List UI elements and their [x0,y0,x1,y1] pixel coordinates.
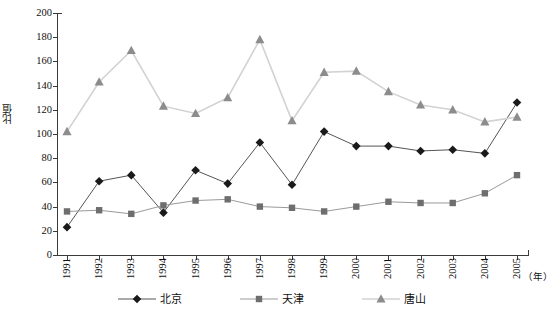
legend-entry-2[interactable]: 天津 [240,293,304,305]
legend-label: 北京 [160,293,182,305]
x-tick-label: 1998 [287,258,297,279]
data-point [416,147,425,156]
y-tick-label: 100 [36,129,52,139]
x-tick-label: 2000 [351,258,361,279]
x-tick-label: 2005 [512,258,522,279]
data-point [385,199,391,205]
x-tick-label: 1994 [158,258,168,279]
data-point [321,208,327,214]
y-tick-label: 20 [42,226,53,236]
data-point [512,112,521,120]
data-point [127,46,136,54]
data-point [63,223,72,232]
y-tick-label: 140 [36,81,52,91]
data-point [191,166,200,175]
x-tick-label: 1993 [126,258,136,279]
data-point [450,200,456,206]
x-tick-label: 1997 [255,258,265,279]
x-tick-label: 1991 [62,258,72,279]
data-point [192,197,198,203]
chart-legend: 北京天津唐山 [0,289,544,309]
data-point [448,145,457,154]
x-tick-label: 2001 [383,258,393,279]
data-point [255,35,264,43]
legend-marker-diamond-icon [118,293,156,305]
legend-entry-1[interactable]: 北京 [118,293,182,305]
legend-label: 唐山 [404,293,426,305]
x-axis-tick-labels: 1991199219931994199519961997199819992000… [57,258,529,292]
legend-marker-triangle-icon [362,293,400,305]
series-3 [62,35,521,135]
data-point [225,196,231,202]
data-point [353,203,359,209]
y-tick-label: 120 [36,105,52,115]
x-tick-label: 2002 [416,258,426,279]
data-point [160,202,166,208]
y-tick-label: 80 [42,153,53,163]
data-point [128,211,134,217]
legend-label: 天津 [282,293,304,305]
data-point [95,177,104,186]
x-tick-label: 2004 [480,258,490,279]
data-point [417,200,423,206]
data-point [289,205,295,211]
x-tick-label: 1999 [319,258,329,279]
y-axis-tick-labels: 020406080100120140160180200 [22,0,52,262]
legend-marker-square-icon [240,293,278,305]
data-point [159,101,168,109]
data-point [320,127,329,136]
series-2 [64,172,520,217]
y-tick-mark [53,255,57,256]
x-axis-unit-label: （年） [523,272,551,282]
data-point [223,93,232,101]
x-axis-line [57,255,529,256]
x-tick-label: 1995 [191,258,201,279]
data-point [257,203,263,209]
x-tick-label: 2003 [448,258,458,279]
x-tick-label: 1992 [94,258,104,279]
data-point [223,179,232,188]
data-point [352,142,361,151]
plot-area [57,13,529,255]
y-tick-label: 160 [36,56,52,66]
data-series-layer [57,13,529,255]
y-tick-label: 60 [42,177,53,187]
data-point [514,172,520,178]
data-point [384,142,393,151]
y-tick-label: 200 [36,8,52,18]
data-point [513,98,522,107]
y-tick-label: 180 [36,32,52,42]
x-tick-label: 1996 [223,258,233,279]
data-point [64,208,70,214]
data-point [482,190,488,196]
data-point [256,138,265,147]
y-tick-label: 40 [42,202,53,212]
legend-entry-3[interactable]: 唐山 [362,293,426,305]
data-point [288,181,297,190]
data-point [481,149,490,158]
y-axis-title: 比值 [2,104,18,124]
y-tick-label: 0 [47,250,52,260]
data-point [96,207,102,213]
data-point [384,87,393,95]
